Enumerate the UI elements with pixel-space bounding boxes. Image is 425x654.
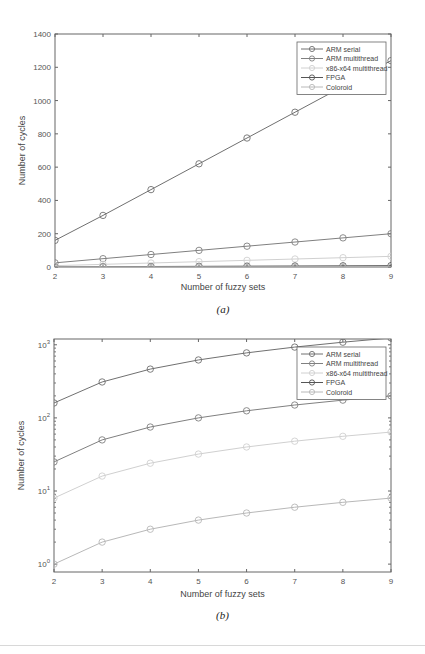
x-tick-label: 7 [293,272,298,281]
y-tick-label: 100 [38,558,51,569]
divider [0,645,425,646]
y-tick-label: 102 [38,412,51,423]
y-tick-label: 200 [38,230,52,239]
x-axis-label: Number of fuzzy sets [181,282,266,292]
x-axis-label: Number of fuzzy sets [180,589,265,599]
series-line [55,234,391,263]
legend-entry: FPGA [326,379,345,386]
legend-entry: ARM serial [326,351,361,358]
x-tick-label: 3 [101,272,106,281]
legend-entry: ARM multithread [326,55,378,62]
y-tick-label: 0 [47,263,52,272]
x-tick-label: 4 [148,577,153,586]
y-tick-label: 1400 [33,30,51,39]
chart-a: 234567890200400600800100012001400Number … [17,30,394,316]
x-tick-label: 6 [244,577,249,586]
y-tick-label: 1000 [33,97,51,106]
legend: ARM serialARM multithreadx86-x64 multith… [297,42,388,95]
legend-entry: ARM multithread [326,360,378,367]
series-line [54,396,391,462]
legend: ARM serialARM multithreadx86-x64 multith… [297,347,388,400]
x-tick-label: 5 [196,577,201,586]
y-tick-label: 101 [38,485,51,496]
legend-entry: Coloroid [326,84,352,91]
figure-caption: (a) [217,303,230,316]
x-tick-label: 4 [149,272,154,281]
series-line [54,498,391,564]
legend-entry: x86-x64 multithread [326,370,388,377]
legend-entry: FPGA [326,74,345,81]
x-tick-label: 9 [389,272,394,281]
legend-entry: ARM serial [326,46,361,53]
x-tick-label: 3 [100,577,105,586]
y-axis-label: Number of cycles [16,420,26,490]
x-tick-label: 5 [197,272,202,281]
x-tick-label: 7 [292,577,297,586]
x-tick-label: 9 [389,577,394,586]
y-tick-label: 800 [38,130,52,139]
x-tick-label: 6 [245,272,250,281]
x-tick-label: 2 [53,272,58,281]
x-tick-label: 8 [341,577,346,586]
y-tick-label: 400 [38,196,52,205]
legend-entry: x86-x64 multithread [326,65,388,72]
y-axis-label: Number of cycles [17,115,27,185]
x-tick-label: 8 [341,272,346,281]
figure: 234567890200400600800100012001400Number … [0,0,425,654]
chart-b: 23456789100101102103Number of fuzzy sets… [16,335,394,622]
legend-entry: Coloroid [326,389,352,396]
y-tick-label: 1200 [33,63,51,72]
x-tick-label: 2 [52,577,57,586]
y-tick-label: 103 [38,339,51,350]
figure-caption: (b) [216,609,229,622]
y-tick-label: 600 [38,163,52,172]
